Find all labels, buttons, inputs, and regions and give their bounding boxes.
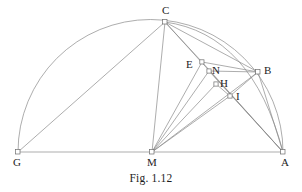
point-label-N: N xyxy=(212,65,220,76)
segment-I-B xyxy=(230,72,258,96)
segments-layer xyxy=(18,22,283,152)
point-marker-N xyxy=(207,69,211,73)
geometry-figure: C G M A B E N H I Fig. 1.12 xyxy=(0,0,302,192)
point-label-M: M xyxy=(147,157,157,168)
segment-A-B xyxy=(258,72,283,152)
point-marker-B xyxy=(256,70,260,74)
point-marker-E xyxy=(200,60,204,64)
point-marker-I xyxy=(228,94,232,98)
point-marker-A xyxy=(281,150,285,154)
point-label-B: B xyxy=(264,65,271,76)
point-label-G: G xyxy=(13,157,21,168)
arcs-layer xyxy=(18,20,283,153)
point-marker-H xyxy=(214,82,218,86)
point-marker-C xyxy=(163,20,167,24)
point-label-H: H xyxy=(220,78,228,89)
point-marker-G xyxy=(16,150,20,154)
segment-M-B xyxy=(152,72,258,152)
segment-M-I xyxy=(152,96,230,152)
point-label-A: A xyxy=(281,157,289,168)
point-label-E: E xyxy=(186,59,193,70)
point-markers-layer xyxy=(16,20,285,154)
point-marker-M xyxy=(150,150,154,154)
point-label-C: C xyxy=(162,5,169,16)
figure-caption: Fig. 1.12 xyxy=(0,172,302,184)
segment-G-C xyxy=(18,22,165,152)
point-label-I: I xyxy=(236,91,240,102)
segment-M-N xyxy=(152,71,209,152)
semicircle-G-C-A xyxy=(18,20,283,153)
